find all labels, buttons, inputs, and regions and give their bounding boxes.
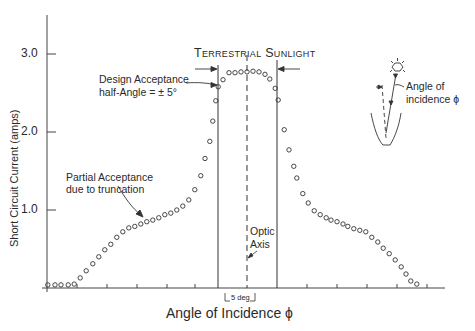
data-point bbox=[404, 272, 408, 276]
data-point bbox=[211, 119, 215, 123]
data-point bbox=[341, 222, 345, 226]
inset-optic-axis bbox=[382, 85, 386, 138]
ytick-label-2: 2.0 bbox=[21, 125, 38, 138]
data-point bbox=[301, 191, 305, 195]
data-point bbox=[84, 269, 88, 273]
optic-axis-label-1: Optic bbox=[250, 226, 275, 238]
parabolic-concentrator bbox=[371, 113, 401, 145]
chart-title-text: Terrestrial Sunlight bbox=[194, 46, 315, 60]
data-point bbox=[97, 255, 101, 259]
inset-diagram bbox=[371, 58, 405, 145]
data-point bbox=[127, 226, 131, 230]
data-point bbox=[109, 242, 113, 246]
data-point bbox=[187, 198, 191, 202]
data-point bbox=[121, 230, 125, 234]
data-point bbox=[346, 224, 350, 228]
data-point bbox=[175, 208, 179, 212]
data-point bbox=[352, 227, 356, 231]
design-acceptance-label-1: Design Acceptance bbox=[99, 74, 189, 86]
data-point bbox=[208, 139, 212, 143]
data-point bbox=[239, 70, 243, 74]
data-point bbox=[376, 240, 380, 244]
data-point bbox=[257, 70, 261, 74]
data-point bbox=[263, 72, 267, 76]
data-point bbox=[214, 99, 218, 103]
data-point bbox=[46, 283, 50, 287]
x-axis-label: Angle of Incidence ϕ bbox=[166, 306, 293, 321]
data-point bbox=[306, 201, 310, 205]
data-point bbox=[103, 248, 107, 252]
data-point bbox=[53, 283, 57, 287]
data-point bbox=[318, 213, 322, 217]
ytick-label-1: 1.0 bbox=[21, 203, 38, 216]
data-point bbox=[221, 78, 225, 82]
y-axis-label: Short Circuit Current (amps) bbox=[8, 109, 20, 247]
scale-bar-label: 5 deg bbox=[231, 294, 250, 302]
data-point bbox=[387, 252, 391, 256]
data-point bbox=[151, 218, 155, 222]
data-point bbox=[157, 216, 161, 220]
data-point bbox=[393, 258, 397, 262]
reference-lines bbox=[218, 55, 277, 288]
data-point bbox=[115, 235, 119, 239]
data-point bbox=[233, 71, 237, 75]
data-point bbox=[193, 188, 197, 192]
data-point bbox=[324, 216, 328, 220]
data-point bbox=[169, 211, 173, 215]
data-point bbox=[415, 282, 419, 286]
data-point bbox=[199, 174, 203, 178]
data-point bbox=[312, 209, 316, 213]
partial-acceptance-label-2: due to truncation bbox=[66, 184, 144, 196]
ytick-label-3: 3.0 bbox=[21, 47, 38, 60]
partial-acceptance-label-1: Partial Acceptance bbox=[66, 172, 153, 184]
data-point bbox=[409, 279, 413, 283]
data-point bbox=[163, 213, 167, 217]
data-point bbox=[145, 220, 149, 224]
optic-axis-arrow bbox=[248, 251, 257, 258]
xticks bbox=[77, 284, 427, 288]
data-point bbox=[364, 230, 368, 234]
data-point bbox=[59, 283, 63, 287]
data-point bbox=[292, 164, 296, 168]
data-point bbox=[282, 128, 286, 132]
optic-axis-label-2: Axis bbox=[250, 239, 270, 251]
data-point bbox=[381, 246, 385, 250]
data-point bbox=[181, 204, 185, 208]
acceptance-arrows bbox=[186, 67, 300, 88]
inset-label-1: Angle of bbox=[406, 81, 445, 93]
data-point bbox=[287, 148, 291, 152]
data-point bbox=[72, 282, 76, 286]
data-point bbox=[399, 265, 403, 269]
data-point bbox=[335, 220, 339, 224]
data-point bbox=[251, 69, 255, 73]
data-point bbox=[139, 222, 143, 226]
data-point bbox=[78, 276, 82, 280]
data-point bbox=[370, 235, 374, 239]
data-point bbox=[329, 218, 333, 222]
inset-label-2: incidence ϕ bbox=[406, 94, 459, 106]
data-point bbox=[203, 156, 207, 160]
data-point bbox=[358, 228, 362, 232]
data-point bbox=[227, 71, 231, 75]
data-point bbox=[268, 77, 272, 81]
data-point bbox=[295, 176, 299, 180]
data-point bbox=[66, 283, 70, 287]
chart-title: Terrestrial Sunlight bbox=[194, 47, 315, 61]
data-point bbox=[91, 262, 95, 266]
data-point bbox=[133, 224, 137, 228]
design-acceptance-label-2: half-Angle = ± 5° bbox=[99, 87, 177, 99]
sun-icon bbox=[390, 58, 405, 72]
